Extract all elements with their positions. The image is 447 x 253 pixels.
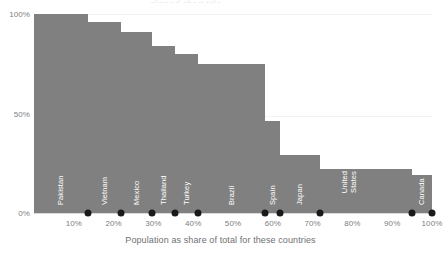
bar-canada: Canada xyxy=(412,175,432,213)
x-tick-20pct: 20% xyxy=(94,219,134,228)
bar-label-united-states: United States xyxy=(341,159,358,205)
bar-japan: Japan xyxy=(280,155,320,213)
clipped-chart-title: clipped chart title xyxy=(150,0,400,3)
bar-pakistan: Pakistan xyxy=(34,14,88,213)
y-tick-100pct: 100% xyxy=(0,10,30,19)
bar-spain: Spain xyxy=(265,121,280,213)
bar-turkey: Turkey xyxy=(175,54,198,213)
marker-dot-canada xyxy=(429,210,436,217)
marker-dot-united-states xyxy=(409,210,416,217)
x-tick-80pct: 80% xyxy=(332,219,372,228)
marker-dot-brazil xyxy=(262,210,269,217)
x-tick-10pct: 10% xyxy=(54,219,94,228)
bar-label-spain: Spain xyxy=(269,185,277,205)
marker-dot-turkey xyxy=(195,210,202,217)
marker-dot-japan xyxy=(317,210,324,217)
bar-label-turkey: Turkey xyxy=(183,182,191,205)
x-tick-60pct: 60% xyxy=(253,219,293,228)
marker-dot-vietnam xyxy=(118,210,125,217)
marker-dot-spain xyxy=(277,210,284,217)
bar-united-states: United States xyxy=(320,169,412,213)
bar-label-thailand: Thailand xyxy=(160,175,168,205)
x-axis-baseline xyxy=(34,213,432,214)
bar-label-brazil: Brazil xyxy=(228,186,236,205)
y-tick-0pct: 0% xyxy=(0,209,30,218)
x-axis-title: Population as share of total for these c… xyxy=(0,235,441,246)
x-tick-100pct: 100% xyxy=(412,219,447,228)
plot-area: PakistanVietnamMexicoThailandTurkeyBrazi… xyxy=(34,14,432,213)
bar-brazil: Brazil xyxy=(198,64,265,213)
y-tick-50pct: 50% xyxy=(0,110,30,119)
x-tick-50pct: 50% xyxy=(213,219,253,228)
x-tick-40pct: 40% xyxy=(173,219,213,228)
x-tick-70pct: 70% xyxy=(293,219,333,228)
marker-dot-thailand xyxy=(172,210,179,217)
bar-mexico: Mexico xyxy=(121,32,152,213)
marker-dot-pakistan xyxy=(85,210,92,217)
bar-thailand: Thailand xyxy=(152,46,175,213)
bar-label-pakistan: Pakistan xyxy=(57,175,65,205)
x-tick-90pct: 90% xyxy=(372,219,412,228)
bar-label-vietnam: Vietnam xyxy=(101,177,109,205)
x-tick-30pct: 30% xyxy=(133,219,173,228)
marker-dot-mexico xyxy=(149,210,156,217)
bars-layer: PakistanVietnamMexicoThailandTurkeyBrazi… xyxy=(34,14,432,213)
bar-vietnam: Vietnam xyxy=(88,22,121,213)
bar-label-mexico: Mexico xyxy=(133,181,141,205)
bar-label-japan: Japan xyxy=(296,184,304,205)
bar-label-canada: Canada xyxy=(418,178,426,205)
